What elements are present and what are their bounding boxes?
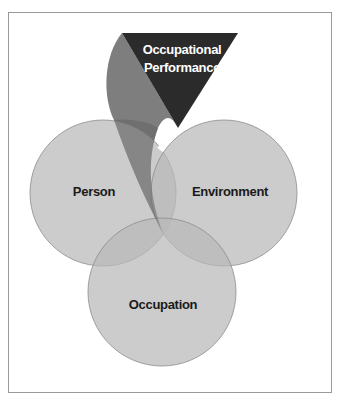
label-person: Person bbox=[73, 184, 116, 199]
label-occupation: Occupation bbox=[129, 297, 198, 312]
outcome-label-line2: Performance bbox=[144, 60, 220, 75]
pem-diagram: Occupational Performance Person Environm… bbox=[0, 0, 340, 401]
venn-circles bbox=[30, 120, 297, 366]
circle-occupation bbox=[88, 218, 236, 366]
outcome-label-line1: Occupational bbox=[143, 42, 222, 57]
label-environment: Environment bbox=[192, 184, 269, 199]
